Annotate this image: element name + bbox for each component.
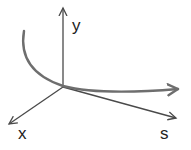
axes-diagram: y x s <box>0 0 191 150</box>
s-axis-label: s <box>160 124 169 143</box>
x-axis-label: x <box>18 124 27 143</box>
x-axis <box>9 87 63 124</box>
y-axis-label: y <box>72 16 81 35</box>
trajectory-curve <box>23 31 178 92</box>
